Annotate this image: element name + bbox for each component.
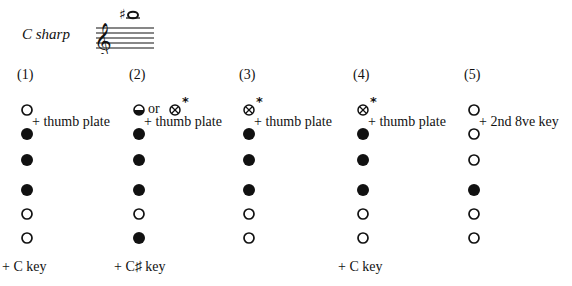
closed-hole-icon: [132, 183, 146, 197]
side-annotation: + thumb plate: [32, 114, 110, 130]
closed-hole-icon: [356, 183, 370, 197]
bottom-annotation: + C♯ key: [114, 259, 165, 275]
closed-hole-icon: [242, 183, 256, 197]
whole-note-icon: [128, 12, 138, 19]
asterisk-icon: *: [370, 94, 377, 109]
closed-hole-icon: [20, 183, 34, 197]
closed-hole-icon: [20, 153, 34, 167]
bottom-annotation: + C key: [338, 259, 382, 275]
fingering-number: (5): [464, 67, 480, 83]
closed-hole-icon: [132, 153, 146, 167]
asterisk-icon: *: [256, 94, 263, 109]
open-hole-icon: [467, 153, 481, 167]
open-hole-icon: [20, 207, 34, 221]
asterisk-icon: *: [182, 94, 189, 109]
fingering-number: (3): [239, 67, 255, 83]
side-annotation: + thumb plate: [368, 114, 446, 130]
staff-notation: 𝄞 ♯: [88, 4, 158, 54]
closed-hole-icon: [242, 153, 256, 167]
open-hole-icon: [356, 231, 370, 245]
open-hole-icon: [242, 207, 256, 221]
treble-clef-icon: 𝄞: [94, 22, 112, 54]
note-title: C sharp: [22, 26, 70, 43]
open-hole-icon: [242, 231, 256, 245]
fingering-number: (1): [17, 67, 33, 83]
closed-hole-icon: [132, 231, 146, 245]
sharp-icon: ♯: [119, 6, 126, 22]
fingering-number: (4): [353, 67, 369, 83]
bottom-annotation: + C key: [2, 259, 46, 275]
fingering-number: (2): [129, 67, 145, 83]
side-annotation: + thumb plate: [254, 114, 332, 130]
closed-hole-icon: [356, 153, 370, 167]
side-annotation: + 2nd 8ve key: [479, 114, 559, 130]
closed-hole-icon: [467, 183, 481, 197]
open-hole-icon: [20, 231, 34, 245]
open-hole-icon: [467, 207, 481, 221]
open-hole-icon: [356, 207, 370, 221]
open-hole-icon: [467, 231, 481, 245]
open-hole-icon: [132, 207, 146, 221]
side-annotation: + thumb plate: [144, 114, 222, 130]
